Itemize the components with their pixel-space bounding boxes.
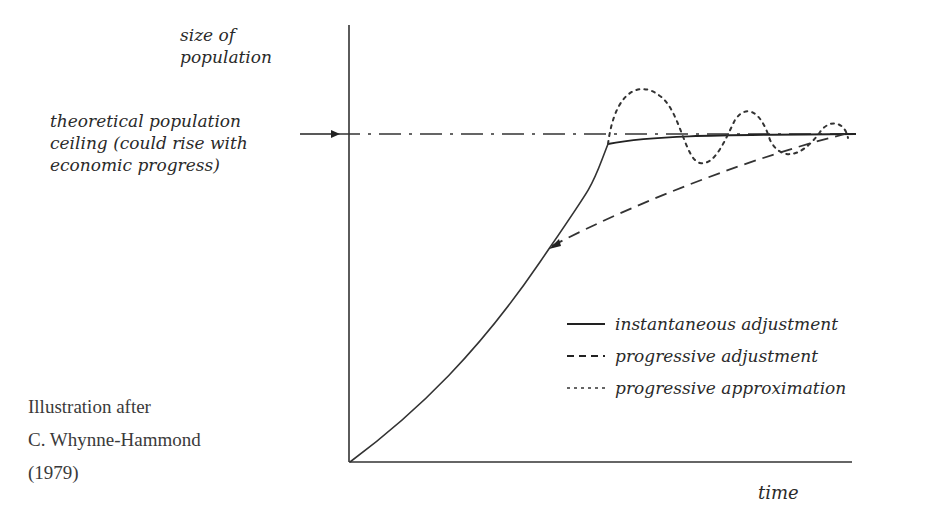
solid-line-icon — [567, 319, 605, 329]
credit-line2: C. Whynne-Hammond — [28, 423, 201, 456]
ceiling-label-line3: economic progress) — [50, 154, 248, 176]
legend-item-solid: instantaneous adjustment — [567, 308, 846, 340]
ceiling-label-line1: theoretical population — [50, 110, 248, 132]
legend: instantaneous adjustment progressive adj… — [567, 308, 846, 404]
ceiling-arrow-icon — [300, 130, 340, 138]
dotted-line-icon — [567, 383, 605, 393]
legend-label: progressive adjustment — [615, 346, 818, 366]
y-axis-label-line1: size of — [180, 24, 272, 46]
progressive-approximation-curve — [608, 89, 848, 163]
instantaneous-adjustment-curve — [608, 134, 856, 144]
credit-line1: Illustration after — [28, 390, 201, 423]
dashed-line-icon — [567, 351, 605, 361]
y-axis-label-line2: population — [180, 46, 272, 68]
credit-line3: (1979) — [28, 456, 201, 489]
ceiling-label: theoretical population ceiling (could ri… — [50, 110, 248, 176]
y-axis-label: size of population — [180, 24, 272, 68]
growth-curve — [350, 144, 608, 462]
legend-label: progressive approximation — [615, 378, 846, 398]
x-axis-label: time — [758, 482, 799, 504]
legend-item-dotted: progressive approximation — [567, 372, 846, 404]
ceiling-label-line2: ceiling (could rise with — [50, 132, 248, 154]
legend-item-dashed: progressive adjustment — [567, 340, 846, 372]
legend-label: instantaneous adjustment — [615, 314, 838, 334]
illustration-credit: Illustration after C. Whynne-Hammond (19… — [28, 390, 201, 489]
